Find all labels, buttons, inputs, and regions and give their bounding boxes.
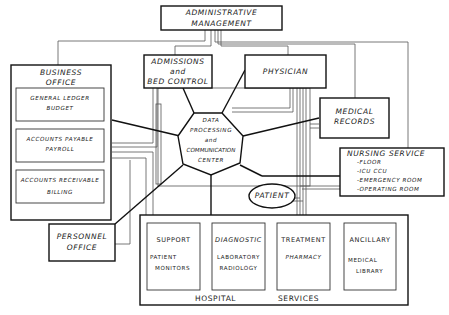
hub-label-5: CENTER	[178, 157, 244, 163]
accounts-receivable-label: ACCOUNTS RECEIVABLE	[16, 177, 104, 183]
admin-label-1: ADMINISTRATIVE	[161, 8, 282, 17]
ancillary-item: LIBRARY	[356, 268, 383, 274]
support-title: SUPPORT	[147, 236, 200, 244]
diagnostic-item: RADIOLOGY	[212, 265, 265, 271]
treatment-title: TREATMENT	[277, 236, 330, 244]
treatment-item: PHARMACY	[277, 254, 330, 260]
admissions-label-2: and	[144, 67, 212, 76]
hub-label-4: COMMUNICATION	[176, 147, 246, 153]
services-label: SERVICES	[278, 294, 319, 303]
support-item: MONITORS	[155, 265, 190, 271]
diagnostic-item: LABORATORY	[212, 254, 265, 260]
general-ledger-label: GENERAL LEDGER	[16, 95, 104, 101]
ancillary-title: ANCILLARY	[344, 236, 396, 244]
business-label-2: OFFICE	[11, 78, 111, 87]
physician-label: PHYSICIAN	[245, 67, 326, 76]
billing-label: BILLING	[16, 189, 104, 195]
admissions-label-3: BED CONTROL	[144, 77, 212, 86]
hub-label-3: and	[178, 137, 244, 143]
budget-label: BUDGET	[16, 105, 104, 111]
hub-label-2: PROCESSING	[178, 127, 244, 133]
diagnostic-title: DIAGNOSTIC	[212, 236, 265, 244]
support-item: PATIENT	[150, 254, 177, 260]
hospital-label: HOSPITAL	[195, 294, 236, 303]
hub-label-1: DATA	[178, 117, 244, 123]
payroll-label: PAYROLL	[16, 146, 104, 152]
nursing-item: -EMERGENCY ROOM	[357, 177, 422, 183]
business-label-1: BUSINESS	[11, 68, 111, 77]
medical-records-label-1: MEDICAL	[320, 107, 389, 116]
admin-label-2: MANAGEMENT	[161, 19, 282, 28]
nursing-item: -OPERATING ROOM	[357, 186, 420, 192]
nursing-item: -FLOOR	[357, 159, 381, 165]
personnel-label-1: PERSONNEL	[49, 232, 115, 241]
patient-label: PATIENT	[249, 191, 295, 200]
nursing-title: NURSING SERVICE	[347, 149, 425, 158]
personnel-label-2: OFFICE	[49, 243, 115, 252]
ancillary-item: MEDICAL	[348, 257, 377, 263]
admissions-label-1: ADMISSIONS	[144, 57, 212, 66]
accounts-payable-label: ACCOUNTS PAYABLE	[16, 136, 104, 142]
nursing-item: -ICU CCU	[357, 168, 387, 174]
medical-records-label-2: RECORDS	[320, 117, 389, 126]
